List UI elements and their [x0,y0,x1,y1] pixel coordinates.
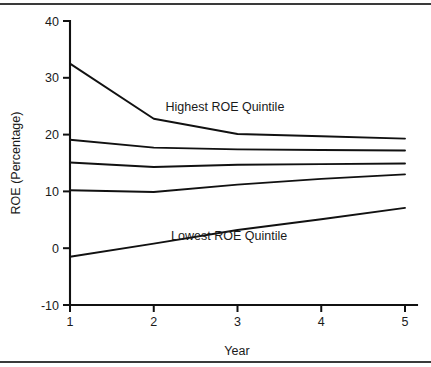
series-line [70,174,405,192]
line-chart: -10010203040 12345 Highest ROE QuintileL… [0,0,431,367]
y-tick-labels-group: -10010203040 [41,15,59,313]
figure-container: -10010203040 12345 Highest ROE QuintileL… [0,0,431,367]
y-tick-label: -10 [41,299,59,313]
y-tick-label: 10 [45,185,59,199]
x-tick-label: 4 [318,315,325,329]
y-tick-label: 20 [45,128,59,142]
annotations-group: Highest ROE QuintileLowest ROE Quintile [166,100,288,243]
y-axis-title: ROE (Percentage) [9,112,23,215]
y-tick-label: 40 [45,15,59,29]
chart-annotation: Highest ROE Quintile [166,100,285,114]
y-tick-label: 0 [52,242,59,256]
y-tick-label: 30 [45,71,59,85]
series-line [70,140,405,151]
chart-annotation: Lowest ROE Quintile [171,229,287,243]
series-line [70,162,405,167]
chart-plot-area: -10010203040 12345 Highest ROE QuintileL… [0,0,431,367]
x-tick-labels-group: 12345 [67,315,409,329]
x-tick-label: 2 [150,315,157,329]
x-tick-label: 3 [234,315,241,329]
tick-marks-group [63,21,405,312]
x-axis-title: Year [224,344,249,358]
x-tick-label: 1 [67,315,74,329]
x-tick-label: 5 [402,315,409,329]
